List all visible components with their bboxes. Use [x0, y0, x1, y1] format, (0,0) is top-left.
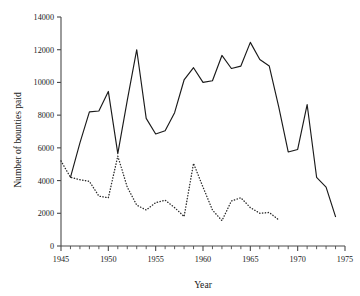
y-tick-label: 6000 — [38, 144, 54, 153]
x-axis-tick-labels: 1945195019551960196519701975 — [53, 255, 353, 264]
series-line-dotted-series — [61, 156, 279, 221]
y-tick-label: 8000 — [38, 111, 54, 120]
x-tick-label: 1955 — [147, 255, 163, 264]
series-line-solid-series — [70, 42, 335, 216]
data-series — [61, 42, 336, 220]
x-tick-label: 1960 — [195, 255, 211, 264]
line-chart: 02000400060008000100001200014000 1945195… — [0, 0, 360, 296]
y-tick-label: 10000 — [34, 78, 54, 87]
y-tick-label: 2000 — [38, 209, 54, 218]
x-tick-label: 1975 — [337, 255, 353, 264]
y-tick-label: 4000 — [38, 177, 54, 186]
y-axis-tick-labels: 02000400060008000100001200014000 — [34, 13, 54, 251]
axis-ticks — [57, 17, 345, 251]
y-tick-label: 0 — [50, 242, 54, 251]
y-axis-title: Number of bounties paid — [12, 92, 23, 188]
chart-container: 02000400060008000100001200014000 1945195… — [0, 0, 360, 296]
x-tick-label: 1945 — [53, 255, 69, 264]
x-axis-title: Year — [194, 279, 212, 290]
x-tick-label: 1950 — [100, 255, 116, 264]
x-tick-label: 1970 — [289, 255, 305, 264]
y-tick-label: 14000 — [34, 13, 54, 22]
y-tick-label: 12000 — [34, 46, 54, 55]
axes — [61, 17, 345, 246]
x-tick-label: 1965 — [242, 255, 258, 264]
